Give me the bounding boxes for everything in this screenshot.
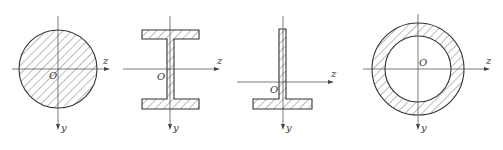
- origin-label: O: [49, 70, 57, 81]
- y-axis-label: y: [420, 122, 427, 133]
- z-axis-arrow-icon: [214, 67, 220, 71]
- z-axis-label: z: [216, 55, 223, 66]
- cross-sections-diagram: z y O z y O z y O z y O: [0, 0, 503, 150]
- t-section: [253, 29, 312, 109]
- figure-hollow-circle: z y O: [363, 14, 492, 133]
- z-axis-label: z: [330, 68, 337, 79]
- y-axis-arrow-icon: [56, 124, 60, 130]
- z-axis-arrow-icon: [104, 67, 110, 71]
- origin-label: O: [419, 57, 427, 68]
- z-axis-arrow-icon: [328, 80, 334, 84]
- figure-t-section: z y O: [237, 16, 337, 133]
- y-axis-arrow-icon: [416, 124, 420, 130]
- y-axis-label: y: [172, 122, 179, 133]
- i-beam-section: [142, 30, 199, 109]
- z-axis-arrow-icon: [484, 67, 490, 71]
- figure-solid-circle: z y O: [12, 16, 110, 133]
- y-axis-arrow-icon: [281, 124, 285, 130]
- origin-label: O: [270, 84, 278, 95]
- y-axis-label: y: [285, 122, 292, 133]
- y-axis-arrow-icon: [168, 124, 172, 130]
- y-axis-label: y: [60, 122, 67, 133]
- origin-label: O: [157, 71, 165, 82]
- z-axis-label: z: [102, 55, 109, 66]
- figure-i-beam: z y O: [123, 16, 223, 133]
- z-axis-label: z: [485, 55, 492, 66]
